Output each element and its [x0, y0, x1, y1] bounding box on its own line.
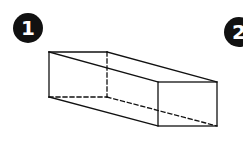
- bottom-left-long-edge: [49, 97, 158, 126]
- front-face: [158, 82, 217, 126]
- top-right-long-edge: [107, 52, 217, 82]
- hidden-bottom-right-long-edge: [107, 97, 217, 126]
- top-left-long-edge: [49, 52, 158, 82]
- rectangular-prism-diagram: [0, 0, 243, 157]
